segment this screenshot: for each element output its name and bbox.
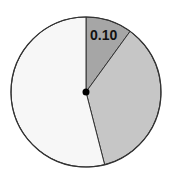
center-dot — [83, 89, 90, 96]
pie-svg: 0.10 — [0, 0, 170, 179]
slice-label-0: 0.10 — [90, 27, 117, 43]
pie-chart: 0.10 — [0, 0, 170, 179]
